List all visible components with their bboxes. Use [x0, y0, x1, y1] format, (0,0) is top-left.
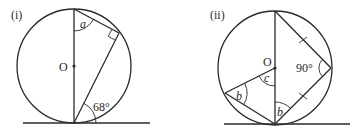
center-point-ii [273, 66, 276, 69]
circle-geometry-diagram: (i) a 68° O (ii) 90° c [0, 0, 361, 136]
angle-a-label: a [80, 17, 86, 31]
angle-b-left-arc [244, 83, 247, 104]
figure-i: (i) a 68° O [11, 8, 150, 123]
figure-ii-label: (ii) [210, 8, 225, 22]
center-label-i: O [59, 60, 68, 74]
angle-90-arc [319, 59, 323, 76]
center-label-ii: O [263, 55, 272, 69]
angle-c-label: c [264, 71, 270, 85]
figure-ii: (ii) 90° c b b O [210, 8, 350, 125]
angle-90-label: 90° [296, 61, 313, 75]
angle-b-left-label: b [236, 89, 242, 103]
center-point-i [72, 64, 75, 67]
angle-b-bottom-label: b [277, 105, 283, 119]
angle-68-label: 68° [93, 100, 110, 114]
figure-i-label: (i) [11, 8, 22, 22]
